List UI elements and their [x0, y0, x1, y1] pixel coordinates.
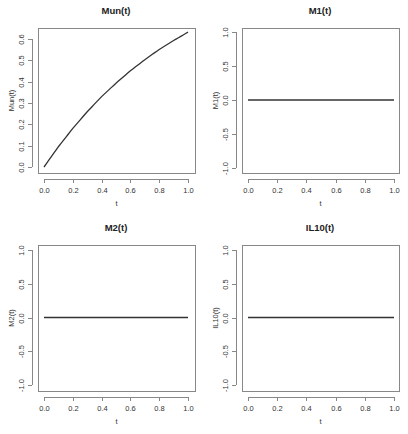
y-tick-label: 0.3: [17, 98, 26, 108]
y-tick-label: 0.1: [17, 141, 26, 151]
chart-panel-4: IL10(t)0.00.20.40.60.81.0t-1.0-0.50.00.5…: [211, 222, 400, 426]
y-axis: 0.00.10.20.30.40.50.6: [17, 34, 33, 172]
x-axis-label: t: [319, 417, 322, 426]
x-axis: 0.00.20.40.60.81.0: [39, 179, 193, 195]
y-tick-label: 0.0: [17, 162, 26, 172]
x-tick-label: 0.2: [68, 404, 78, 413]
x-tick-label: 0.8: [360, 404, 370, 413]
x-tick-label: 0.0: [39, 186, 49, 195]
y-tick-label: 1.0: [221, 27, 230, 37]
y-tick-label: 1.0: [221, 245, 230, 255]
plot-frame: [243, 29, 400, 174]
plot-frame: [39, 246, 196, 392]
y-axis-label: M2(t): [7, 309, 16, 327]
y-axis: -1.0-0.50.00.51.0: [221, 245, 237, 392]
y-axis: -1.0-0.50.00.51.0: [17, 245, 33, 392]
plot-frame: [39, 29, 196, 174]
y-tick-label: -0.5: [17, 345, 26, 358]
y-tick-label: 0.2: [17, 119, 26, 129]
x-tick-label: 0.6: [125, 404, 135, 413]
x-tick-label: 0.4: [301, 186, 311, 195]
y-tick-label: 0.0: [17, 313, 26, 323]
x-axis: 0.00.20.40.60.81.0: [243, 179, 399, 195]
x-tick-label: 1.0: [389, 186, 399, 195]
x-tick-label: 0.2: [68, 186, 78, 195]
y-tick-label: 0.5: [221, 61, 230, 71]
y-tick-label: 0.5: [17, 279, 26, 289]
x-tick-label: 1.0: [183, 186, 193, 195]
y-tick-label: 1.0: [17, 245, 26, 255]
y-tick-label: 0.0: [221, 313, 230, 323]
y-axis-label: Mun(t): [7, 89, 16, 111]
chart-panel-1: Mun(t)0.00.20.40.60.81.0t0.00.10.20.30.4…: [7, 5, 196, 208]
x-axis-label: t: [115, 417, 118, 426]
x-tick-label: 0.6: [331, 186, 341, 195]
y-tick-label: 0.4: [17, 77, 26, 87]
x-tick-label: 0.2: [272, 186, 282, 195]
chart-panel-2: M1(t)0.00.20.40.60.81.0t-1.0-0.50.00.51.…: [211, 5, 400, 208]
x-tick-label: 0.6: [125, 186, 135, 195]
chart-title: IL10(t): [306, 222, 335, 233]
y-tick-label: 0.5: [221, 279, 230, 289]
x-tick-label: 0.8: [154, 404, 164, 413]
plot-frame: [243, 246, 400, 392]
y-tick-label: 0.5: [17, 55, 26, 65]
y-tick-label: 0.6: [17, 34, 26, 44]
x-tick-label: 0.0: [243, 404, 253, 413]
figure: Mun(t)0.00.20.40.60.81.0t0.00.10.20.30.4…: [0, 0, 408, 434]
x-tick-label: 0.4: [97, 404, 107, 413]
x-tick-label: 1.0: [183, 404, 193, 413]
chart-title: M2(t): [105, 222, 128, 233]
chart-title: M1(t): [309, 5, 332, 16]
x-tick-label: 0.4: [301, 404, 311, 413]
data-line: [44, 32, 188, 167]
x-axis-label: t: [115, 199, 118, 208]
y-axis-label: IL10(t): [211, 307, 220, 329]
y-axis-label: M1(t): [211, 91, 220, 109]
x-tick-label: 0.0: [39, 404, 49, 413]
y-tick-label: -0.5: [221, 345, 230, 358]
x-axis-label: t: [319, 199, 322, 208]
x-tick-label: 0.8: [154, 186, 164, 195]
x-tick-label: 1.0: [389, 404, 399, 413]
y-tick-label: -1.0: [221, 379, 230, 392]
x-tick-label: 0.0: [243, 186, 253, 195]
x-tick-label: 0.4: [97, 186, 107, 195]
x-axis: 0.00.20.40.60.81.0: [39, 397, 193, 413]
y-tick-label: -1.0: [221, 162, 230, 175]
y-tick-label: 0.0: [221, 95, 230, 105]
y-axis: -1.0-0.50.00.51.0: [221, 27, 237, 175]
x-tick-label: 0.6: [331, 404, 341, 413]
chart-title: Mun(t): [101, 5, 130, 16]
y-tick-label: -1.0: [17, 379, 26, 392]
chart-panel-3: M2(t)0.00.20.40.60.81.0t-1.0-0.50.00.51.…: [7, 222, 196, 426]
x-axis: 0.00.20.40.60.81.0: [243, 397, 399, 413]
x-tick-label: 0.8: [360, 186, 370, 195]
x-tick-label: 0.2: [272, 404, 282, 413]
y-tick-label: -0.5: [221, 128, 230, 141]
